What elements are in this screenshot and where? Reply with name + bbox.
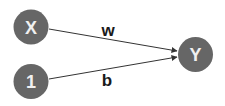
neuron-diagram: w b X 1 Y (0, 0, 225, 106)
node-y-label: Y (189, 45, 201, 65)
edge-b: b (49, 57, 177, 90)
node-one-label: 1 (26, 72, 36, 92)
node-one: 1 (14, 64, 49, 99)
edge-label-b: b (102, 71, 112, 90)
node-x: X (14, 10, 49, 45)
edge-line-one-to-y (49, 57, 177, 79)
node-x-label: X (25, 18, 37, 38)
edge-w: w (49, 21, 177, 52)
edge-label-w: w (100, 21, 115, 40)
node-y: Y (178, 37, 213, 72)
